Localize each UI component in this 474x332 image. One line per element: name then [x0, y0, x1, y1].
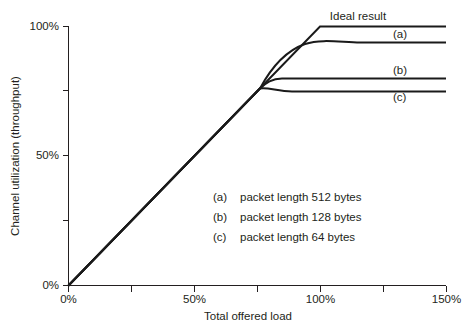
x-tick-label-100: 100%	[306, 293, 335, 305]
chart-container: 0% 50% 100% 0% 50% 100% 150% Total offer…	[0, 0, 474, 332]
legend-text-a: packet length 512 bytes	[240, 191, 362, 203]
y-tick-label-50: 50%	[36, 149, 59, 161]
x-tick-label-50: 50%	[183, 293, 206, 305]
y-axis-title: Channel utilization (throughput)	[9, 76, 21, 236]
x-axis-ticks	[69, 286, 447, 292]
series-tag-c: (c)	[393, 91, 407, 103]
legend-text-b: packet length 128 bytes	[240, 211, 362, 223]
legend-row-a: (a) packet length 512 bytes	[213, 191, 362, 203]
x-axis-title: Total offered load	[204, 310, 292, 322]
series-tag-b: (b)	[393, 64, 407, 76]
annotation-ideal-result: Ideal result	[330, 10, 387, 22]
legend-row-c: (c) packet length 64 bytes	[213, 231, 355, 243]
x-tick-label-0: 0%	[60, 293, 77, 305]
legend-text-c: packet length 64 bytes	[240, 231, 355, 243]
series-tag-a: (a)	[393, 28, 407, 40]
y-tick-label-0: 0%	[42, 279, 59, 291]
legend-key-b: (b)	[213, 211, 227, 223]
series-c-64-bytes	[69, 88, 447, 285]
channel-utilization-chart: 0% 50% 100% 0% 50% 100% 150% Total offer…	[0, 0, 474, 332]
axis-lines	[69, 26, 447, 286]
legend-key-a: (a)	[213, 191, 227, 203]
legend-row-b: (b) packet length 128 bytes	[213, 211, 362, 223]
y-tick-label-100: 100%	[30, 20, 59, 32]
series-ideal-result	[69, 27, 447, 286]
y-axis-ticks	[63, 27, 69, 286]
x-tick-label-150: 150%	[432, 293, 461, 305]
legend: (a) packet length 512 bytes (b) packet l…	[213, 191, 362, 243]
legend-key-c: (c)	[213, 231, 227, 243]
series-b-128-bytes	[69, 79, 447, 286]
